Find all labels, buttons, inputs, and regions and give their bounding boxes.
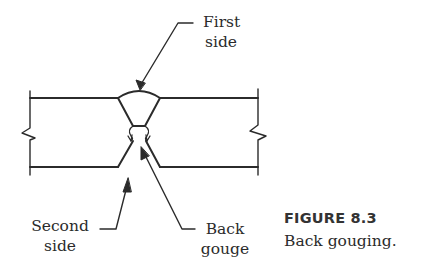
label-back-gouge-line2: gouge bbox=[197, 239, 253, 259]
weld-diagram-figure: First side Second side Back gouge FIGURE… bbox=[0, 0, 438, 278]
arrowhead-icon bbox=[136, 80, 145, 90]
figure-number: FIGURE 8.3 bbox=[284, 210, 377, 226]
back-gouge-marks bbox=[128, 126, 150, 141]
right-plate bbox=[160, 89, 266, 175]
label-first-side-line1: First bbox=[203, 12, 240, 32]
first-side-weld bbox=[118, 91, 160, 126]
figure-caption: Back gouging. bbox=[284, 232, 397, 250]
label-first-side: First side bbox=[203, 12, 240, 52]
left-break-line-icon bbox=[22, 91, 35, 175]
first-side-leader bbox=[136, 23, 193, 90]
arrowhead-icon bbox=[141, 147, 149, 160]
label-second-side-line1: Second bbox=[27, 216, 93, 236]
label-back-gouge-line1: Back bbox=[197, 219, 253, 239]
label-second-side-line2: side bbox=[27, 236, 93, 256]
label-second-side: Second side bbox=[27, 216, 93, 256]
arrowhead-icon bbox=[123, 178, 131, 192]
second-side-leader bbox=[100, 178, 131, 229]
right-break-line-icon bbox=[250, 89, 266, 175]
back-gouge-leader bbox=[141, 147, 195, 229]
label-first-side-line2: side bbox=[203, 32, 240, 52]
label-back-gouge: Back gouge bbox=[197, 219, 253, 259]
second-side-groove bbox=[118, 141, 160, 167]
left-plate bbox=[22, 91, 118, 175]
